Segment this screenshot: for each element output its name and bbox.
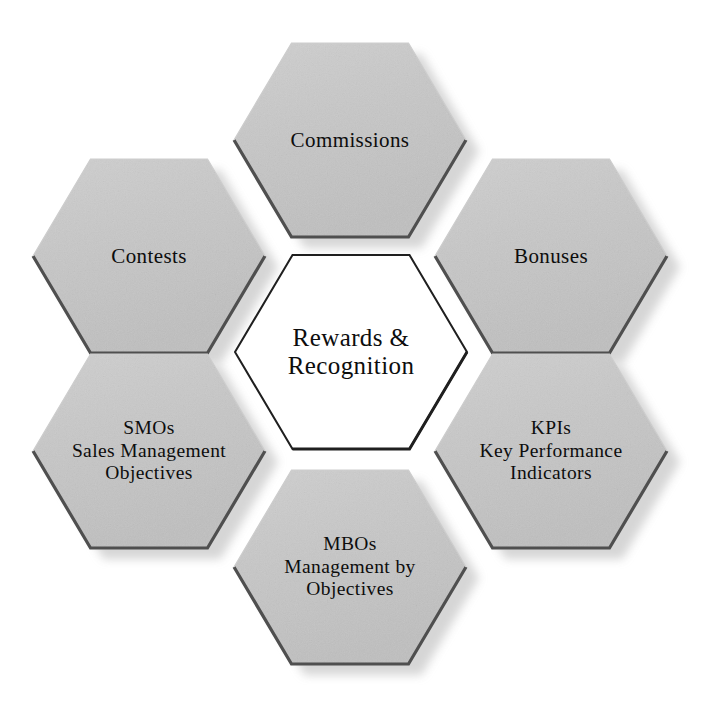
- hexagon-mbos-line1: MBOs: [323, 533, 377, 556]
- hexagon-contests[interactable]: Contests: [32, 157, 266, 355]
- hexagon-bonuses[interactable]: Bonuses: [434, 157, 668, 355]
- hexagon-mbos[interactable]: MBOs Management by Objectives: [233, 468, 467, 666]
- hexagon-commissions-label: Commissions: [233, 41, 467, 239]
- hexagon-smos-line2: Sales Management: [72, 440, 226, 463]
- hexagon-contests-line1: Contests: [111, 244, 187, 268]
- hexagon-rewards-recognition[interactable]: Rewards & Recognition: [234, 253, 468, 451]
- hexagon-bonuses-line1: Bonuses: [514, 244, 588, 268]
- hexagon-center-label: Rewards & Recognition: [234, 253, 468, 451]
- hexagon-commissions[interactable]: Commissions: [233, 41, 467, 239]
- hexagon-smos[interactable]: SMOs Sales Management Objectives: [32, 352, 266, 550]
- hexagon-commissions-line1: Commissions: [291, 128, 410, 152]
- hexagon-center-line1: Rewards &: [293, 324, 410, 352]
- hexagon-kpis-label: KPIs Key Performance Indicators: [434, 352, 668, 550]
- hexagon-mbos-line3: Objectives: [306, 578, 393, 601]
- hexagon-mbos-line2: Management by: [284, 556, 415, 579]
- hexagon-bonuses-label: Bonuses: [434, 157, 668, 355]
- hexagon-kpis-line1: KPIs: [531, 417, 572, 440]
- hexagon-center-line2: Recognition: [288, 352, 415, 380]
- hexagon-kpis-line2: Key Performance: [480, 440, 623, 463]
- hexagon-smos-line1: SMOs: [123, 417, 174, 440]
- hexagon-contests-label: Contests: [32, 157, 266, 355]
- hexagon-smos-label: SMOs Sales Management Objectives: [32, 352, 266, 550]
- hexagon-kpis-line3: Indicators: [510, 462, 592, 485]
- hexagon-diagram: Contests Commissions Bonuses: [0, 0, 702, 718]
- hexagon-mbos-label: MBOs Management by Objectives: [233, 468, 467, 666]
- hexagon-smos-line3: Objectives: [105, 462, 192, 485]
- hexagon-kpis[interactable]: KPIs Key Performance Indicators: [434, 352, 668, 550]
